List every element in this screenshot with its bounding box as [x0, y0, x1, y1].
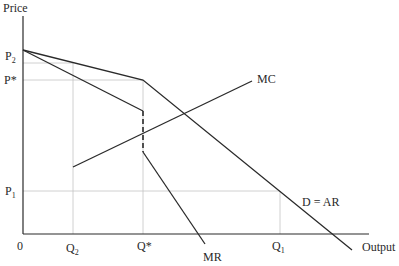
y-axis-label: Price — [3, 2, 28, 14]
q1-sub: 1 — [281, 246, 285, 255]
x-axis-label: Output — [362, 241, 395, 253]
p1-main: P — [5, 184, 12, 198]
p2-label: P2 — [5, 50, 16, 67]
q1-main: Q — [272, 239, 281, 253]
q2-label: Q2 — [66, 242, 79, 259]
q1-label: Q1 — [272, 240, 285, 257]
mr-label: MR — [203, 251, 222, 263]
mr-lower-segment — [143, 152, 205, 244]
mc-curve — [73, 81, 252, 167]
guide-lines — [23, 63, 280, 234]
kinked-demand-diagram — [0, 0, 399, 266]
mc-label: MC — [257, 73, 276, 85]
p2-sub: 2 — [12, 56, 16, 65]
origin-label: 0 — [17, 240, 23, 252]
demand-label: D = AR — [302, 196, 339, 208]
p2-main: P — [5, 49, 12, 63]
mr-upper-segment — [23, 50, 143, 111]
q2-main: Q — [66, 241, 75, 255]
p1-label: P1 — [5, 185, 16, 202]
pstar-label: P* — [4, 74, 17, 86]
qstar-label: Q* — [137, 240, 152, 252]
q2-sub: 2 — [75, 248, 79, 257]
p1-sub: 1 — [12, 191, 16, 200]
